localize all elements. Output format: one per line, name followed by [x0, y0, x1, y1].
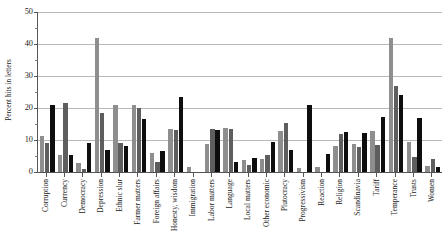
- bar: [242, 160, 246, 172]
- bar: [87, 143, 91, 172]
- plot-area: [37, 12, 442, 173]
- bar: [417, 118, 421, 172]
- bar-group: [424, 12, 442, 172]
- x-tick-label: Plutocracy: [281, 179, 289, 211]
- bar: [344, 132, 348, 172]
- x-tick-cell: Farmer matters: [129, 173, 147, 249]
- bar: [229, 129, 233, 172]
- bar: [271, 142, 275, 172]
- bar-chart-figure: Percent hits in letters 01020304050 Corr…: [0, 0, 444, 249]
- bar: [362, 133, 366, 172]
- y-axis-tick-labels: 01020304050: [14, 0, 33, 180]
- x-tick-label: Labor matters: [208, 179, 216, 221]
- x-tick-mark: [413, 173, 414, 177]
- x-tick-mark: [248, 173, 249, 177]
- bar: [339, 134, 343, 172]
- bar: [278, 131, 282, 172]
- y-tick-label: 0: [14, 168, 33, 176]
- x-tick-cell: Reaction: [312, 173, 330, 249]
- bar: [307, 105, 311, 172]
- x-tick-cell: Women: [423, 173, 441, 249]
- bar: [370, 131, 374, 172]
- bar-group: [295, 12, 313, 172]
- x-tick-mark: [303, 173, 304, 177]
- x-tick-label: Local matters: [244, 179, 252, 220]
- x-tick-cell: Other economic: [257, 173, 275, 249]
- x-tick-mark: [46, 173, 47, 177]
- bar: [333, 146, 337, 172]
- x-tick-mark: [229, 173, 230, 177]
- x-tick-mark: [211, 173, 212, 177]
- bar: [247, 165, 251, 172]
- bar-group: [167, 12, 185, 172]
- bar: [223, 128, 227, 172]
- bar-group: [93, 12, 111, 172]
- bar: [425, 166, 429, 172]
- bar: [381, 117, 385, 172]
- y-tick-label: 10: [14, 136, 33, 144]
- bar: [124, 146, 128, 172]
- bar: [113, 105, 117, 172]
- bar: [436, 167, 440, 172]
- x-tick-cell: Honesty, wisdom: [166, 173, 184, 249]
- x-tick-label: Other economic: [263, 179, 271, 227]
- x-tick-mark: [376, 173, 377, 177]
- x-tick-mark: [174, 173, 175, 177]
- bar: [289, 150, 293, 172]
- bar: [375, 145, 379, 172]
- bar-group: [111, 12, 129, 172]
- x-tick-mark: [101, 173, 102, 177]
- x-tick-label: Progressivism: [299, 179, 307, 222]
- bar: [95, 38, 99, 172]
- x-tick-cell: Depression: [92, 173, 110, 249]
- bar: [150, 153, 154, 172]
- bar: [265, 155, 269, 172]
- bar: [215, 130, 219, 172]
- bar: [45, 143, 49, 172]
- x-tick-label: Foreign affairs: [153, 179, 161, 223]
- x-tick-cell: Local matters: [239, 173, 257, 249]
- x-tick-cell: Scandinavia: [349, 173, 367, 249]
- bar-group: [222, 12, 240, 172]
- bar-groups: [38, 12, 442, 172]
- y-tick-label: 30: [14, 72, 33, 80]
- x-tick-cell: Corruption: [37, 173, 55, 249]
- bar-group: [350, 12, 368, 172]
- bar: [431, 159, 435, 172]
- x-tick-label: Immigration: [189, 179, 197, 217]
- bar: [315, 167, 319, 172]
- bar: [179, 97, 183, 172]
- bar-group: [185, 12, 203, 172]
- bar: [407, 142, 411, 172]
- bar-group: [313, 12, 331, 172]
- bar: [234, 162, 238, 172]
- x-tick-cell: Immigration: [184, 173, 202, 249]
- y-tick-label: 20: [14, 104, 33, 112]
- x-tick-cell: Religion: [331, 173, 349, 249]
- x-tick-label: Women: [428, 179, 436, 202]
- x-tick-cell: Language: [221, 173, 239, 249]
- x-tick-label: Tariff: [373, 179, 381, 196]
- x-tick-mark: [137, 173, 138, 177]
- bar: [389, 38, 393, 172]
- x-tick-label: Scandinavia: [354, 179, 362, 216]
- x-tick-cell: Trusts: [404, 173, 422, 249]
- x-tick-mark: [156, 173, 157, 177]
- bar: [399, 95, 403, 172]
- bar: [174, 130, 178, 172]
- bar: [284, 123, 288, 172]
- bar: [160, 151, 164, 172]
- bar: [326, 154, 330, 172]
- y-axis-title-text: Percent hits in letters: [5, 59, 13, 121]
- y-tick-label: 50: [14, 8, 33, 16]
- bar: [155, 162, 159, 172]
- x-tick-label: Corruption: [42, 179, 50, 212]
- x-tick-label: Honesty, wisdom: [171, 179, 179, 231]
- x-tick-label: Ethnic slur: [116, 179, 124, 212]
- bar: [412, 157, 416, 172]
- bar: [260, 159, 264, 172]
- bar: [205, 144, 209, 172]
- x-tick-label: Depression: [97, 179, 105, 213]
- x-tick-label: Trusts: [410, 179, 418, 198]
- bar: [297, 168, 301, 172]
